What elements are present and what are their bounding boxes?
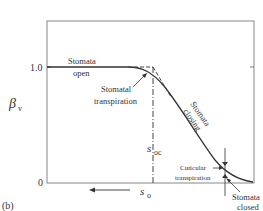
y-axis-symbol: β [8,96,16,111]
beta-curve [47,67,253,182]
cuticular-label-1: Cuticular [180,164,207,172]
y-tick-label-0: 0 [38,177,43,188]
stomatal-transpiration-pointer [133,75,145,87]
stomata-open-label-1: Stomata [68,56,96,66]
stomata-closed-pointer [228,180,240,192]
soc-symbol: s [147,142,151,154]
stomatal-transpiration-label-1: Stomatal [101,84,132,94]
stomatal-transpiration-label-2: transpiration [94,96,138,106]
plot-frame [47,21,254,183]
arrowhead-icon [222,174,228,178]
y-axis-subscript: v [18,104,22,113]
stomata-closed-label-1: Stomata [232,192,260,202]
arrowhead-icon [222,162,228,166]
soc-subscript: oc [154,148,162,157]
x-axis-subscript: o [147,191,151,200]
panel-label: (b) [2,200,14,211]
left-arrow-icon [89,188,95,193]
x-axis-symbol: s [140,185,144,197]
y-tick-label-1: 1.0 [30,62,43,73]
cuticular-label-2: transpiration [175,174,211,182]
stomata-closed-label-2: closed [237,202,259,211]
stomata-response-diagram: 1.0 0 β v Stomata open Stomatal transpir… [0,0,263,211]
stomata-open-label-2: open [73,68,90,78]
